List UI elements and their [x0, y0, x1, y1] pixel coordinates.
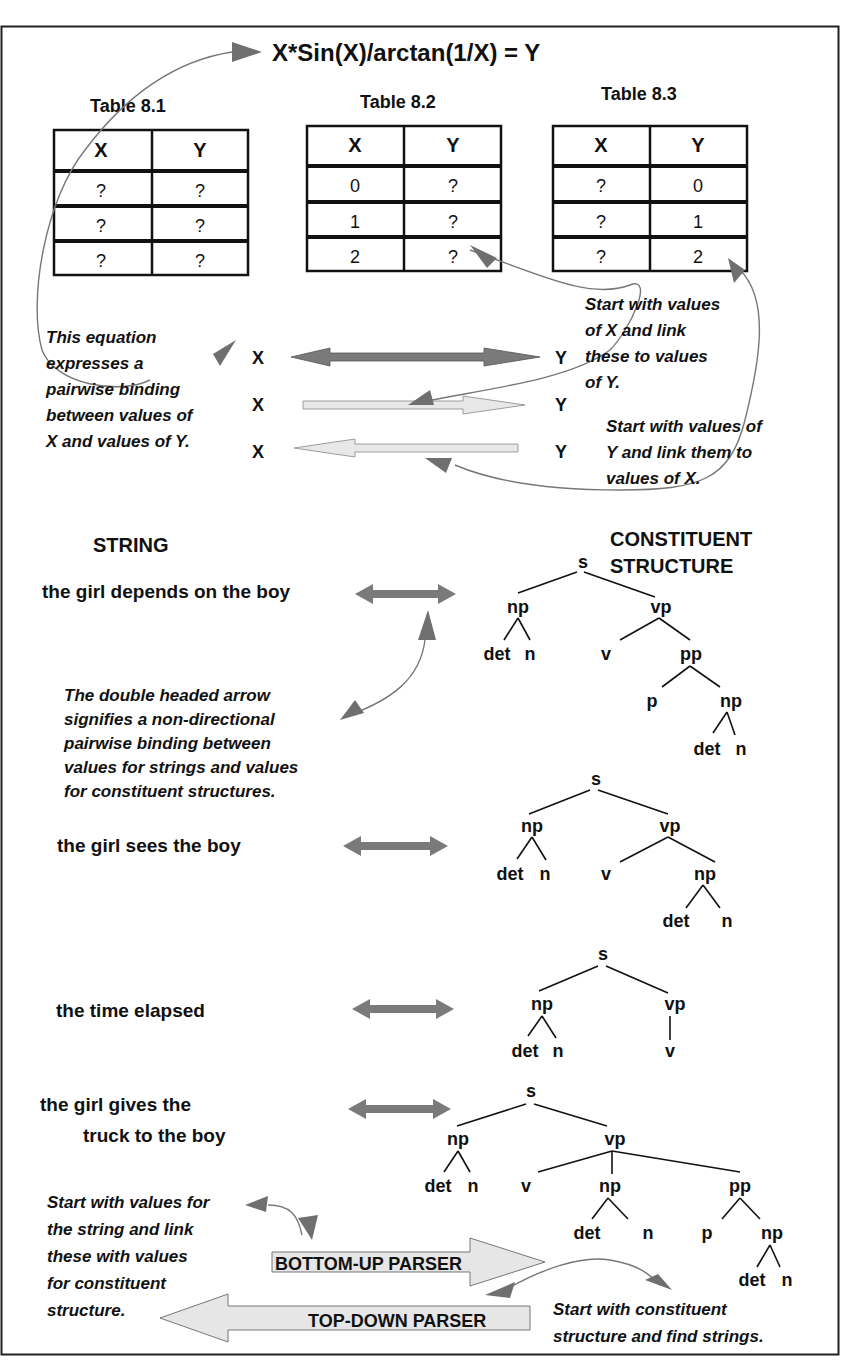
double-arrow-icon	[355, 584, 456, 604]
cell: ?	[596, 247, 606, 267]
svg-text:det: det	[574, 1223, 601, 1243]
svg-text:values of X.: values of X.	[606, 469, 700, 488]
svg-text:n: n	[643, 1223, 654, 1243]
svg-text:signifies a non-directional: signifies a non-directional	[64, 710, 276, 729]
svg-text:This equation: This equation	[46, 328, 157, 347]
cell: ?	[195, 216, 205, 236]
svg-text:s: s	[578, 552, 588, 572]
svg-text:n: n	[540, 864, 551, 884]
arrow-head-icon	[245, 1196, 268, 1212]
svg-text:n: n	[782, 1270, 793, 1290]
svg-text:np: np	[599, 1176, 621, 1196]
note-left-equation: This equation expresses a pairwise bindi…	[45, 328, 195, 451]
y-label: Y	[555, 395, 567, 415]
svg-text:for constituent: for constituent	[47, 1274, 167, 1293]
svg-text:np: np	[531, 994, 553, 1014]
svg-text:structure.: structure.	[47, 1301, 125, 1320]
svg-text:s: s	[591, 769, 601, 789]
arrow-head-icon	[298, 1215, 318, 1240]
cell: 0	[350, 176, 360, 196]
note-bottom-up: Start with values for the string and lin…	[47, 1193, 211, 1320]
arrow-head-icon	[485, 1282, 515, 1298]
svg-text:v: v	[521, 1176, 531, 1196]
heading-constituent: CONSTITUENT	[610, 528, 752, 550]
svg-text:det: det	[739, 1270, 766, 1290]
header-y: Y	[691, 134, 705, 156]
svg-text:Y and link them to: Y and link them to	[606, 443, 752, 462]
svg-text:n: n	[553, 1041, 564, 1061]
double-arrow-icon	[343, 836, 448, 856]
svg-text:v: v	[665, 1041, 675, 1061]
arrow-head-icon	[340, 700, 364, 720]
double-arrow-icon	[291, 348, 540, 366]
heading-string: STRING	[93, 534, 169, 556]
header-y: Y	[446, 134, 460, 156]
svg-text:det: det	[484, 644, 511, 664]
svg-text:the string and link: the string and link	[47, 1220, 195, 1239]
x-label: X	[252, 442, 264, 462]
table-8-2-title: Table 8.2	[360, 92, 436, 112]
double-arrow-icon	[352, 999, 454, 1019]
svg-text:pp: pp	[680, 644, 702, 664]
double-arrow-icon	[348, 1099, 451, 1119]
cell: ?	[448, 176, 458, 196]
curve-arrow-note	[350, 640, 425, 715]
table-8-3: X Y ? 0 ? 1 ? 2	[553, 126, 747, 271]
diagram-canvas: X*Sin(X)/arctan(1/X) = Y Table 8.1 Table…	[0, 0, 842, 1366]
arrow-head-icon	[213, 340, 236, 366]
note-double-arrow: The double headed arrow signifies a non-…	[63, 686, 298, 801]
svg-text:np: np	[507, 597, 529, 617]
svg-text:v: v	[601, 864, 611, 884]
x-label: X	[252, 348, 264, 368]
svg-text:Start with values: Start with values	[585, 295, 720, 314]
arrow-head-icon	[232, 42, 262, 62]
svg-text:Start with values for: Start with values for	[47, 1193, 211, 1212]
cell: ?	[96, 216, 106, 236]
top-down-parser: TOP-DOWN PARSER	[160, 1294, 530, 1342]
svg-text:n: n	[468, 1176, 479, 1196]
arrow-head-icon	[418, 610, 436, 640]
tree-3: s np vp det n v	[512, 944, 686, 1061]
table-8-2: X Y 0 ? 1 ? 2 ?	[307, 126, 501, 271]
svg-text:np: np	[761, 1223, 783, 1243]
svg-text:s: s	[598, 944, 608, 964]
svg-text:of Y.: of Y.	[585, 373, 620, 392]
heading-structure: STRUCTURE	[610, 555, 733, 577]
svg-text:np: np	[694, 864, 716, 884]
svg-text:p: p	[702, 1223, 713, 1243]
svg-text:of X and link: of X and link	[585, 321, 688, 340]
cell: ?	[195, 251, 205, 271]
arrow-head-icon	[408, 390, 434, 405]
left-arrow-icon	[294, 439, 518, 457]
cell: 2	[350, 247, 360, 267]
note-top-down: Start with constituent structure and fin…	[553, 1300, 764, 1346]
svg-text:structure and find strings.: structure and find strings.	[553, 1327, 764, 1346]
tree-2: s np vp det n v np det n	[497, 769, 733, 931]
svg-text:pairwise binding: pairwise binding	[45, 380, 181, 399]
sentence-3: the time elapsed	[56, 1000, 205, 1021]
svg-text:Start with constituent: Start with constituent	[553, 1300, 728, 1319]
cell: 1	[693, 212, 703, 232]
cell: 0	[693, 176, 703, 196]
equation: X*Sin(X)/arctan(1/X) = Y	[272, 39, 540, 66]
sentence-2: the girl sees the boy	[57, 835, 241, 856]
y-label: Y	[555, 348, 567, 368]
cell: ?	[448, 247, 458, 267]
svg-text:expresses a: expresses a	[46, 354, 143, 373]
curve-arrow-bottom-up	[268, 1205, 302, 1235]
svg-text:vp: vp	[659, 816, 680, 836]
svg-text:vp: vp	[604, 1129, 625, 1149]
sentence-4-line-1: the girl gives the	[40, 1094, 191, 1115]
svg-text:pp: pp	[729, 1176, 751, 1196]
svg-text:det: det	[512, 1041, 539, 1061]
svg-text:det: det	[497, 864, 524, 884]
svg-text:np: np	[447, 1129, 469, 1149]
svg-text:n: n	[525, 644, 536, 664]
arrow-head-icon	[425, 458, 452, 473]
svg-text:The double headed arrow: The double headed arrow	[64, 686, 272, 705]
svg-text:det: det	[694, 739, 721, 759]
table-8-1-title: Table 8.1	[90, 96, 166, 116]
svg-text:these with values: these with values	[47, 1247, 188, 1266]
sentence-4-line-2: truck to the boy	[83, 1125, 226, 1146]
cell: ?	[596, 212, 606, 232]
